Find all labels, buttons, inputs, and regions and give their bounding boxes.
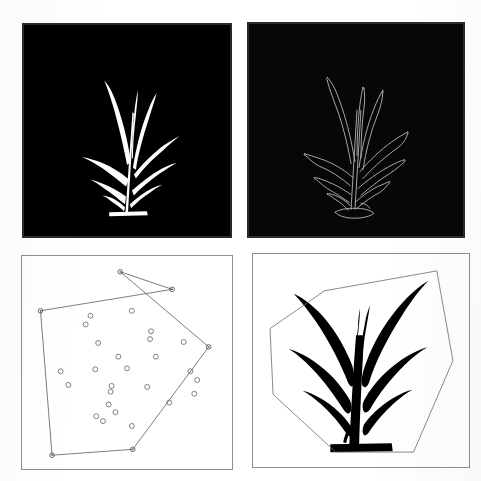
hull-vertex-center-5: [171, 289, 173, 291]
panel-binary-plant-mask: [22, 23, 232, 238]
hull-vertex-center-3: [51, 454, 53, 456]
scatter-plot-background: [22, 256, 232, 469]
hull-vertex-center-1: [208, 346, 210, 348]
plant-hull-overlay-svg: [253, 254, 469, 467]
convex-hull-scatter-svg: [22, 256, 232, 469]
figure-root: [0, 0, 481, 481]
plant-edge-outline-svg: [248, 23, 464, 237]
panel-plant-hull-overlay: [252, 253, 470, 468]
hull-vertex-center-0: [119, 271, 121, 273]
panel-plant-edge-outline: [247, 22, 465, 238]
hull-vertex-center-4: [40, 310, 42, 312]
binary-plant-mask-svg: [23, 24, 231, 237]
hull-vertex-center-2: [132, 449, 134, 451]
panel-convex-hull-scatter: [21, 255, 233, 470]
